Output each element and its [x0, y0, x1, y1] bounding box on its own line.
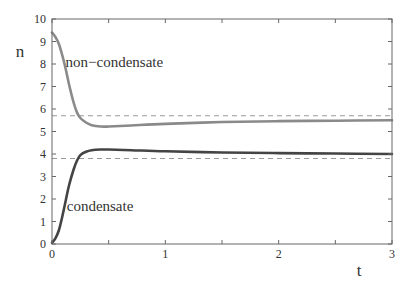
y-tick-labels: 012345678910: [34, 12, 46, 251]
y-tick-label: 10: [34, 12, 46, 26]
chart-svg: 012345678910 0123 n t non−condensate con…: [0, 0, 411, 285]
y-axis-label: n: [16, 42, 25, 61]
y-tick-label: 4: [40, 147, 46, 161]
y-tick-label: 8: [40, 57, 46, 71]
series-line-condensate: [52, 149, 392, 242]
annotation-non-condensate: non−condensate: [66, 54, 164, 70]
chart-container: 012345678910 0123 n t non−condensate con…: [0, 0, 411, 285]
y-tick-label: 7: [40, 80, 46, 94]
y-tick-label: 6: [40, 102, 46, 116]
x-tick-label: 3: [389, 247, 395, 261]
x-tick-label: 2: [276, 247, 282, 261]
y-tick-label: 2: [40, 192, 46, 206]
x-tick-label: 0: [49, 247, 55, 261]
annotation-condensate: condensate: [67, 198, 134, 214]
y-tick-label: 9: [40, 35, 46, 49]
y-tick-label: 1: [40, 215, 46, 229]
x-axis-label: t: [357, 261, 362, 280]
x-tick-label: 1: [162, 247, 168, 261]
y-tick-label: 5: [40, 125, 46, 139]
series-line-non-condensate: [52, 33, 392, 127]
y-tick-label: 0: [40, 237, 46, 251]
y-tick-label: 3: [40, 170, 46, 184]
x-tick-labels: 0123: [49, 247, 395, 261]
